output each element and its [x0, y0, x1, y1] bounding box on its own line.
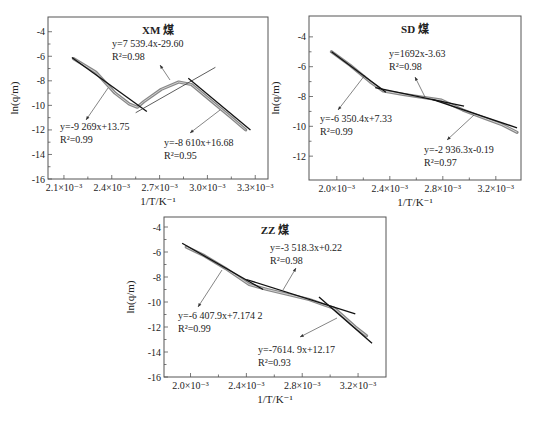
x-tick-label: 2.7×10⁻³	[141, 182, 177, 193]
fit-equation: y=-3 518.3x+0.22	[270, 242, 342, 253]
chart-sd-coal: -4-6-8-10-122.0×10⁻³2.4×10⁻³2.8×10⁻³3.2×…	[269, 16, 521, 208]
chart-title: SD 煤	[401, 22, 430, 35]
x-tick-label: 2.4×10⁻³	[94, 182, 130, 193]
x-tick-label: 2.0×10⁻³	[319, 183, 355, 194]
x-axis-label: 1/T/K⁻¹	[397, 196, 432, 208]
annotation-arrow	[300, 318, 337, 337]
fit-equation: y=-9 269x+13.75	[60, 121, 130, 132]
x-tick-label: 2.0×10⁻³	[172, 380, 208, 391]
chart-title: ZZ 煤	[261, 223, 290, 236]
y-tick-label: -6	[298, 61, 306, 72]
y-tick-label: -10	[148, 297, 161, 308]
y-axis-label: ln(q/m)	[8, 81, 21, 114]
linear-fit-line	[432, 99, 517, 127]
arrowhead-icon	[293, 268, 296, 272]
fit-r-squared: R²=0.99	[60, 134, 93, 145]
chart-zz-coal: -4-6-8-10-12-14-162.0×10⁻³2.4×10⁻³2.8×10…	[124, 217, 386, 405]
fit-equation: y=7 539.4x-29.60	[112, 38, 183, 49]
x-axis-label: 1/T/K⁻¹	[140, 195, 175, 207]
x-tick-label: 2.1×10⁻³	[46, 182, 82, 193]
fit-r-squared: R²=0.98	[112, 51, 145, 62]
arrowhead-icon	[190, 130, 194, 133]
annotation-arrow	[190, 110, 220, 133]
chart-xm-coal: -4-6-8-10-12-14-162.1×10⁻³2.4×10⁻³2.7×10…	[8, 17, 273, 207]
x-tick-label: 2.4×10⁻³	[372, 183, 408, 194]
fit-equation: y=-6 350.4x+7.33	[320, 113, 392, 124]
arrowhead-icon	[338, 106, 341, 110]
arrowhead-icon	[160, 65, 163, 69]
x-tick-label: 2.8×10⁻³	[425, 183, 461, 194]
y-tick-label: -6	[37, 51, 45, 62]
x-tick-label: 3.3×10⁻³	[237, 182, 273, 193]
x-axis-label: 1/T/K⁻¹	[257, 393, 292, 405]
fit-r-squared: R²=0.93	[258, 357, 291, 368]
experimental-data-highlight	[74, 59, 246, 130]
fit-equation: y=-2 936.3x-0.19	[424, 144, 494, 155]
fit-r-squared: R²=0.99	[178, 323, 211, 334]
y-tick-label: -4	[153, 222, 161, 233]
annotation-arrow	[283, 268, 296, 290]
figure-canvas: -4-6-8-10-12-14-162.1×10⁻³2.4×10⁻³2.7×10…	[0, 0, 552, 421]
arrowhead-icon	[198, 303, 201, 307]
chart-title: XM 煤	[142, 23, 175, 36]
fit-equation: y=-7614. 9x+12.17	[258, 344, 335, 355]
y-tick-label: -12	[32, 124, 45, 135]
fit-r-squared: R²=0.98	[270, 255, 303, 266]
y-tick-label: -8	[37, 75, 45, 86]
linear-fit-line	[72, 58, 147, 112]
y-tick-label: -14	[148, 347, 161, 358]
linear-fit-line	[332, 52, 386, 93]
y-axis-label: ln(q/m)	[269, 81, 282, 114]
y-tick-label: -16	[148, 372, 161, 383]
y-tick-label: -8	[298, 91, 306, 102]
annotation-arrow	[198, 270, 222, 307]
y-tick-label: -14	[32, 149, 45, 160]
linear-fit-line	[136, 67, 216, 112]
linear-fit-line	[246, 280, 355, 314]
x-tick-label: 2.4×10⁻³	[228, 380, 264, 391]
y-tick-label: -4	[37, 26, 45, 37]
linear-fit-line	[182, 243, 263, 289]
linear-fit-line	[375, 88, 464, 107]
plot-frame	[309, 16, 521, 180]
linear-fit-line	[319, 297, 372, 343]
fit-r-squared: R²=0.99	[320, 126, 353, 137]
x-tick-label: 2.8×10⁻³	[284, 380, 320, 391]
fit-equation: y=1692x-3.63	[389, 48, 445, 59]
fit-r-squared: R²=0.98	[389, 61, 422, 72]
fit-equation: y=-6 407.9x+7.174 2	[178, 310, 263, 321]
y-tick-label: -12	[293, 151, 306, 162]
experimental-data-curve	[74, 59, 246, 130]
linear-fit-line	[188, 78, 250, 130]
y-tick-label: -8	[153, 272, 161, 283]
x-tick-label: 3.2×10⁻³	[340, 380, 376, 391]
y-tick-label: -10	[32, 100, 45, 111]
annotation-arrow	[447, 115, 474, 140]
fit-r-squared: R²=0.95	[164, 150, 197, 161]
x-tick-label: 3.0×10⁻³	[189, 182, 225, 193]
arrowhead-icon	[86, 116, 89, 120]
fit-equation: y=-8 610x+16.68	[164, 137, 234, 148]
y-tick-label: -4	[298, 31, 306, 42]
figure-container: -4-6-8-10-12-14-162.1×10⁻³2.4×10⁻³2.7×10…	[0, 0, 552, 421]
annotation-arrow	[86, 88, 108, 120]
x-tick-label: 3.2×10⁻³	[478, 183, 514, 194]
annotation-arrow	[338, 75, 365, 110]
y-tick-label: -10	[293, 121, 306, 132]
y-tick-label: -12	[148, 322, 161, 333]
fit-r-squared: R²=0.97	[424, 157, 457, 168]
y-tick-label: -16	[32, 174, 45, 185]
y-axis-label: ln(q/m)	[124, 280, 137, 313]
y-tick-label: -6	[153, 247, 161, 258]
